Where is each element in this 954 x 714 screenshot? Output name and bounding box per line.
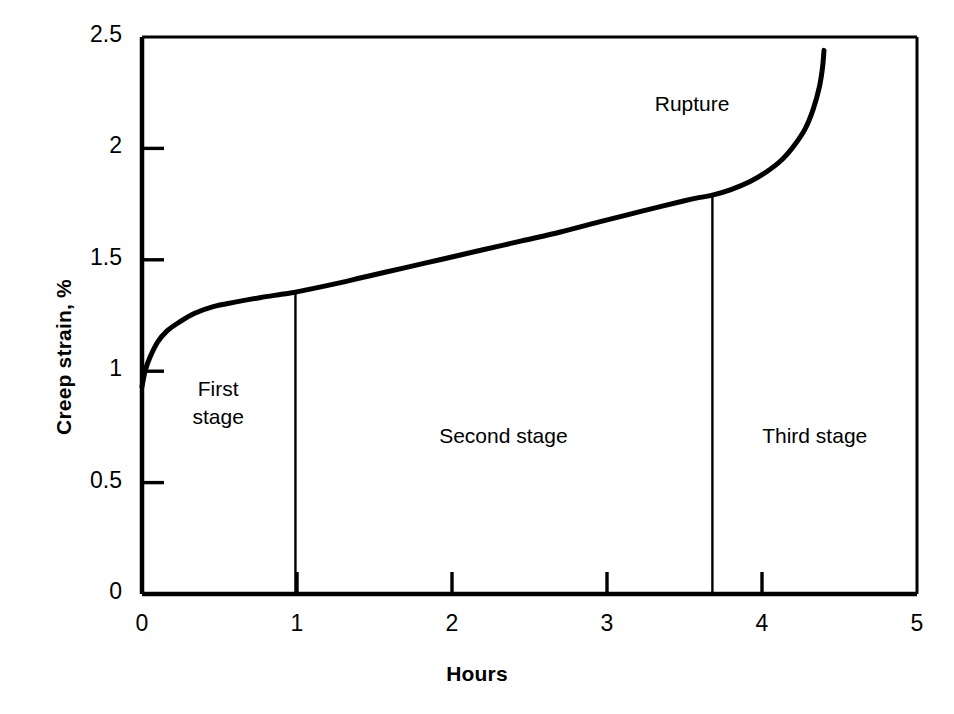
- first-stage-label: First stage: [192, 375, 243, 430]
- y-tick-label: 1.5: [12, 244, 122, 271]
- x-tick-label: 4: [732, 610, 792, 637]
- x-tick-label: 5: [887, 610, 947, 637]
- x-tick-label: 0: [112, 610, 172, 637]
- y-tick-label: 2: [12, 132, 122, 159]
- y-tick-label: 0.5: [12, 467, 122, 494]
- x-tick-label: 1: [267, 610, 327, 637]
- y-tick-label: 0: [12, 578, 122, 605]
- second-stage-label: Second stage: [439, 422, 567, 450]
- x-axis-title: Hours: [0, 662, 954, 686]
- creep-curve-figure: Creep strain, % Hours 00.511.522.5012345…: [0, 0, 954, 714]
- y-tick-label: 1: [12, 355, 122, 382]
- x-tick-label: 3: [577, 610, 637, 637]
- third-stage-label: Third stage: [762, 422, 867, 450]
- rupture-label: Rupture: [655, 92, 730, 116]
- x-tick-label: 2: [422, 610, 482, 637]
- y-tick-label: 2.5: [12, 21, 122, 48]
- plot-area: [0, 0, 954, 714]
